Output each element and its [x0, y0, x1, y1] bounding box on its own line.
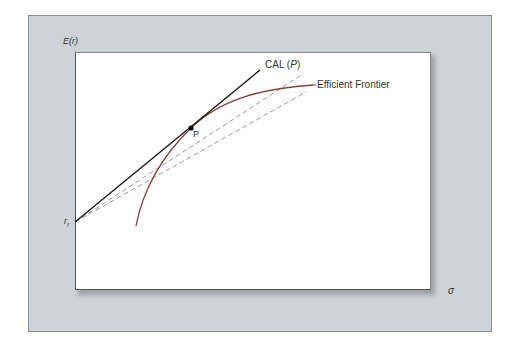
point-p-label: P: [193, 129, 199, 139]
efficient-frontier-label: Efficient Frontier: [317, 79, 390, 90]
cal-p-label: CAL (P): [265, 59, 300, 70]
cal-prefix: CAL (: [265, 59, 290, 70]
y-axis-label: E(r): [63, 36, 78, 46]
x-axis-label: σ: [448, 285, 454, 296]
dashed-cal-2: [75, 92, 306, 222]
rf-label: rf: [64, 216, 69, 228]
rf-subscript: f: [67, 222, 69, 228]
efficient-frontier-curve: [136, 85, 313, 226]
chart-svg: [0, 0, 516, 349]
cal-p-italic: P: [290, 59, 297, 70]
cal-suffix: ): [297, 59, 300, 70]
dashed-cal-1: [75, 74, 303, 222]
cal-p-line: [75, 70, 260, 222]
